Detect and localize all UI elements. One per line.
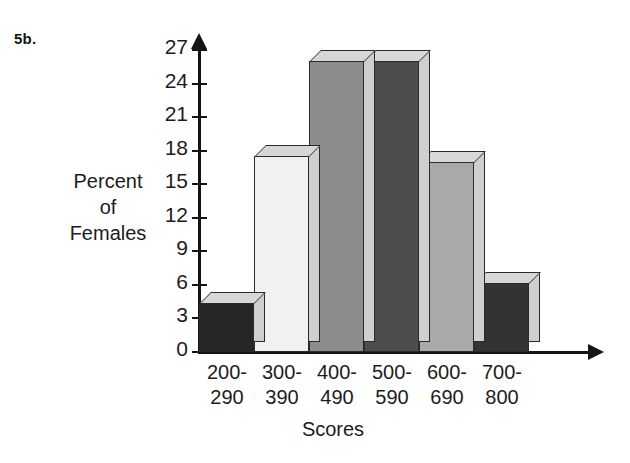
y-axis-tick-label: 0 (144, 337, 188, 361)
x-axis-category-500-590: 500-590 (362, 360, 422, 410)
x-axis-category-700-800: 700-800 (472, 360, 532, 410)
x-axis-category-600-690: 600-690 (417, 360, 477, 410)
x-axis-category-300-390: 300-390 (252, 360, 312, 410)
x-axis-category-line-2: 690 (417, 385, 477, 410)
y-axis-tick-label: 12 (144, 203, 188, 227)
bar-side-face (363, 50, 375, 342)
y-axis-tick (192, 183, 207, 185)
bar-side-face (473, 151, 485, 342)
y-axis-tick-label: 15 (144, 169, 188, 193)
y-axis-tick-label: 6 (144, 270, 188, 294)
x-axis-category-line-2: 490 (307, 385, 367, 410)
x-axis-category-line-1: 200- (197, 360, 257, 385)
y-axis-tick (192, 83, 207, 85)
chart-figure: 5b. Percent of Females 0369121518212427 … (0, 0, 630, 463)
y-axis-tick-label: 3 (144, 303, 188, 327)
x-axis-category-line-1: 300- (252, 360, 312, 385)
x-axis-category-200-290: 200-290 (197, 360, 257, 410)
y-axis-tick-label: 21 (144, 102, 188, 126)
y-axis-tick-label: 18 (144, 136, 188, 160)
x-axis-arrow-icon (588, 344, 604, 360)
y-axis-tick (192, 250, 207, 252)
bar-200-290 (199, 292, 265, 352)
bar-front-face (199, 303, 254, 352)
x-axis-category-400-490: 400-490 (307, 360, 367, 410)
y-axis-tick (192, 49, 207, 51)
problem-number-label: 5b. (14, 30, 36, 47)
y-axis-tick-label: 9 (144, 236, 188, 260)
x-axis-title: Scores (243, 418, 423, 441)
x-axis-category-line-2: 590 (362, 385, 422, 410)
x-axis-category-line-1: 700- (472, 360, 532, 385)
y-axis-tick (192, 116, 207, 118)
bar-side-face (308, 145, 320, 342)
y-axis-tick-label: 27 (144, 35, 188, 59)
x-axis-category-line-2: 800 (472, 385, 532, 410)
y-axis-tick (192, 150, 207, 152)
y-axis-tick (192, 217, 207, 219)
x-axis-category-line-2: 390 (252, 385, 312, 410)
x-axis-category-line-1: 500- (362, 360, 422, 385)
x-axis-category-line-1: 400- (307, 360, 367, 385)
y-axis-tick (192, 284, 207, 286)
y-axis-tick-label: 24 (144, 69, 188, 93)
bar-side-face (418, 50, 430, 342)
x-axis-category-line-2: 290 (197, 385, 257, 410)
x-axis-category-line-1: 600- (417, 360, 477, 385)
